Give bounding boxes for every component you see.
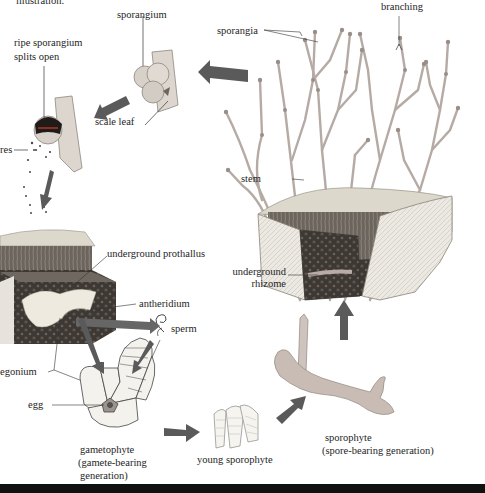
scale-leaf-leader-line bbox=[145, 101, 168, 125]
caption-fragment: illustration. bbox=[16, 0, 64, 7]
label-gametophyte: gametophyte bbox=[80, 444, 134, 456]
arrow-down-icon bbox=[40, 170, 54, 210]
label-sporangium: sporangium bbox=[117, 9, 167, 21]
label-splits-open: splits open bbox=[14, 51, 59, 63]
soil-block bbox=[258, 188, 452, 300]
label-spores: res bbox=[0, 144, 12, 156]
label-egg: egg bbox=[28, 399, 43, 411]
label-spore-bearing-generation: (spore-bearing generation) bbox=[322, 445, 434, 457]
label-branching: branching bbox=[381, 1, 423, 13]
arrow-up-right-icon bbox=[276, 396, 306, 424]
label-generation: generation) bbox=[80, 470, 128, 482]
label-underground-prothallus: underground prothallus bbox=[107, 248, 205, 260]
arrow-up-icon bbox=[334, 300, 354, 340]
label-scale-leaf: scale leaf bbox=[95, 116, 134, 128]
label-ripe-sporangium: ripe sporangium bbox=[14, 37, 83, 49]
label-underground: underground bbox=[226, 266, 286, 278]
label-young-sporophyte: young sporophyte bbox=[197, 454, 273, 466]
label-rhizome: rhizome bbox=[226, 278, 286, 290]
label-antheridium: antheridium bbox=[139, 298, 190, 310]
arrow-left-icon bbox=[198, 60, 248, 84]
label-sporangia: sporangia bbox=[217, 25, 258, 37]
bottom-border bbox=[0, 484, 485, 493]
label-stem: stem bbox=[241, 173, 261, 185]
life-cycle-illustration bbox=[0, 0, 485, 493]
sporangium-illustration bbox=[134, 50, 178, 112]
label-gamete-bearing: (gamete-bearing bbox=[78, 457, 147, 469]
ripe-sporangium-illustration bbox=[34, 96, 82, 172]
label-archegonium: egonium bbox=[0, 366, 37, 378]
arrow-right-large-icon bbox=[164, 424, 200, 442]
label-sperm: sperm bbox=[171, 323, 197, 335]
label-sporophyte: sporophyte bbox=[325, 432, 372, 444]
young-sporophyte-illustration bbox=[214, 405, 258, 448]
